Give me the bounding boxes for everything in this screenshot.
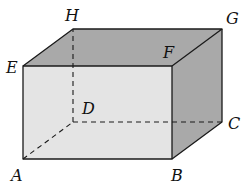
vertex-label-D: D <box>81 99 95 118</box>
vertex-label-E: E <box>5 58 18 77</box>
vertex-label-F: F <box>162 43 175 62</box>
front-face-ABFE <box>23 66 172 159</box>
vertex-label-A: A <box>9 166 23 185</box>
vertex-label-G: G <box>226 9 239 28</box>
vertex-label-C: C <box>228 114 240 133</box>
vertex-label-H: H <box>64 6 80 25</box>
vertex-label-B: B <box>170 166 183 185</box>
rectangular-prism-diagram: H G E F D C A B <box>0 0 244 185</box>
